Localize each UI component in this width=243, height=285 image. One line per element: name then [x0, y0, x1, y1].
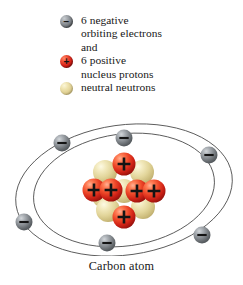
legend-proton-line-2: nucleus protons	[81, 68, 236, 81]
electron-outer-upper-left	[54, 135, 71, 152]
electron-outer-right	[201, 147, 218, 164]
proton-left-inner	[100, 179, 123, 202]
legend-item-neutrons: neutral neutrons	[60, 81, 236, 94]
legend-electron-line-3: and	[81, 41, 236, 54]
electron-outer-lower-right	[194, 227, 211, 244]
legend-electron-line-2: orbiting electrons	[81, 27, 236, 40]
proton-bottom	[113, 206, 136, 229]
legend-item-protons: + 6 positive nucleus protons	[60, 54, 236, 81]
proton-top	[113, 153, 136, 176]
legend-electron-line-1: 6 negative	[81, 14, 236, 27]
legend-item-electrons: − 6 negative orbiting electrons and	[60, 14, 236, 54]
figure-caption: Carbon atom	[0, 259, 243, 273]
carbon-atom-figure: − 6 negative orbiting electrons and + 6 …	[0, 0, 243, 285]
legend-proton-line-1: 6 positive	[81, 54, 236, 67]
atom-svg-canvas	[0, 104, 243, 256]
proton-right-outer	[143, 180, 166, 203]
electron-sphere-icon: −	[60, 15, 73, 28]
electron-outer-left	[16, 214, 33, 231]
neutron-sphere-icon	[60, 82, 73, 95]
plus-sign: +	[64, 57, 70, 67]
electron-inner-bottom	[99, 235, 116, 252]
proton-sphere-icon: +	[60, 55, 73, 68]
legend-neutron-line-1: neutral neutrons	[81, 81, 236, 94]
electron-inner-top	[116, 130, 133, 147]
minus-sign: −	[64, 17, 70, 27]
legend: − 6 negative orbiting electrons and + 6 …	[60, 14, 236, 94]
atom-diagram	[0, 104, 243, 256]
